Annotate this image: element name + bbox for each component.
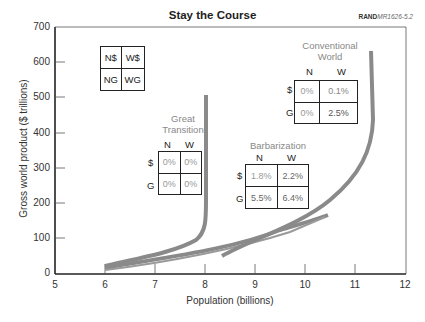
cell-n-dollar: 0%: [159, 152, 181, 174]
y-tick: 500: [10, 91, 50, 102]
x-tick: 10: [295, 279, 315, 290]
y-tick: 200: [10, 197, 50, 208]
cell-w-g: 6.4%: [277, 187, 309, 209]
y-tick: 300: [10, 162, 50, 173]
cell-w-g: 2.5%: [319, 102, 357, 124]
col-header-w: W: [185, 139, 194, 150]
label-line: Transition: [148, 124, 218, 135]
label-line: Barbarization: [238, 140, 318, 151]
legend-cell: W$: [121, 47, 144, 69]
x-tick: 8: [195, 279, 215, 290]
great-transition-table: 0%0% 0%0%: [158, 151, 202, 195]
label-line: World: [290, 51, 370, 62]
x-tick: 9: [245, 279, 265, 290]
barbarization-table: 1.8%2.2% 5.5%6.4%: [245, 164, 309, 209]
x-tick: 5: [45, 279, 65, 290]
cell-w-g: 0%: [180, 173, 202, 195]
x-tick: 12: [395, 279, 415, 290]
great-transition-label: Great Transition: [148, 113, 218, 135]
col-header-n: N: [256, 152, 263, 163]
row-header-g: G: [286, 107, 293, 118]
y-tick: 700: [10, 21, 50, 32]
y-tick: 400: [10, 127, 50, 138]
x-tick: 6: [95, 279, 115, 290]
cell-w-dollar: 0.1%: [319, 81, 357, 103]
cell-n-dollar: 1.8%: [246, 165, 278, 187]
label-line: Conventional: [290, 40, 370, 51]
row-header-dollar: $: [287, 84, 292, 95]
col-header-w: W: [287, 152, 296, 163]
cell-n-g: 0%: [159, 173, 181, 195]
barbarization-label: Barbarization: [238, 140, 318, 151]
legend-cell: NG: [101, 69, 122, 91]
y-axis-label: Gross world product ($ trillions): [18, 64, 29, 234]
conventional-world-label: Conventional World: [290, 40, 370, 62]
cell-n-g: 5.5%: [246, 187, 278, 209]
x-tick: 11: [345, 279, 365, 290]
col-header-n: N: [306, 66, 313, 77]
row-header-g: G: [236, 193, 243, 204]
x-tick: 7: [145, 279, 165, 290]
legend-cell: N$: [101, 47, 122, 69]
col-header-w: W: [337, 66, 346, 77]
cell-w-dollar: 2.2%: [277, 165, 309, 187]
legend-cell: WG: [121, 69, 144, 91]
y-tick: 600: [10, 56, 50, 67]
col-header-n: N: [164, 139, 171, 150]
cell-w-dollar: 0%: [180, 152, 202, 174]
row-header-g: G: [147, 180, 154, 191]
cell-n-dollar: 0%: [295, 81, 320, 103]
legend-key: N$W$ NGWG: [100, 46, 145, 91]
x-axis-label: Population (billions): [55, 295, 405, 306]
conventional-world-table: 0%0.1% 0%2.5%: [294, 80, 358, 124]
y-tick: 100: [10, 232, 50, 243]
row-header-dollar: $: [148, 157, 153, 168]
row-header-dollar: $: [237, 170, 242, 181]
label-line: Great: [148, 113, 218, 124]
cell-n-g: 0%: [295, 102, 320, 124]
y-tick: 0: [10, 267, 50, 278]
